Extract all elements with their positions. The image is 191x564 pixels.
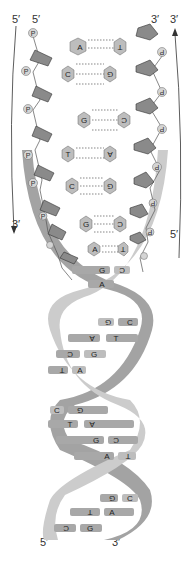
label-5-prime-mid-right: 5′	[170, 228, 178, 240]
svg-text:A: A	[92, 245, 98, 254]
base-pair-7: A T	[60, 232, 146, 264]
svg-text:G: G	[83, 220, 89, 229]
svg-text:A: A	[89, 334, 95, 343]
svg-text:A: A	[77, 366, 83, 375]
svg-text:C: C	[119, 266, 125, 275]
base-pair-4: T A	[34, 138, 156, 181]
svg-text:T: T	[114, 334, 119, 343]
helix-pair: G C	[98, 318, 138, 327]
label-3-prime-inner-right: 3′	[151, 13, 159, 25]
svg-text:G: G	[87, 524, 93, 533]
svg-text:P: P	[41, 213, 46, 220]
helix-pair: G C	[100, 494, 138, 503]
svg-text:C: C	[54, 406, 60, 415]
svg-text:A: A	[104, 452, 110, 461]
svg-text:C: C	[121, 116, 127, 125]
svg-text:G: G	[81, 116, 87, 125]
svg-text:C: C	[69, 182, 75, 191]
label-5-prime-outer-left: 5′	[12, 13, 20, 25]
helix-pair: T A	[48, 366, 86, 375]
svg-text:T: T	[59, 366, 64, 375]
svg-text:P: P	[24, 68, 29, 75]
svg-text:C: C	[67, 350, 73, 359]
helix-pair: C G	[54, 524, 102, 533]
svg-text:P: P	[147, 229, 152, 236]
svg-text:P: P	[31, 30, 36, 37]
svg-text:C: C	[63, 524, 69, 533]
helix-pair: G C	[72, 266, 130, 275]
svg-text:G: G	[91, 350, 97, 359]
svg-text:C: C	[65, 70, 71, 79]
label-5-prime-inner-left: 5′	[32, 13, 40, 25]
svg-text:C: C	[117, 220, 123, 229]
helix-pair: C G	[56, 350, 106, 359]
svg-text:G: G	[77, 406, 83, 415]
label-3-prime-outer-right: 3′	[170, 13, 178, 25]
helix-pair: A T	[74, 452, 136, 461]
svg-text:A: A	[99, 280, 105, 289]
svg-text:C: C	[127, 318, 133, 327]
svg-text:G: G	[93, 436, 99, 445]
svg-text:T: T	[66, 150, 71, 159]
svg-text:A: A	[109, 508, 115, 517]
right-direction-arrow	[172, 28, 181, 258]
svg-text:P: P	[154, 164, 159, 171]
svg-text:T: T	[87, 508, 92, 517]
svg-text:T: T	[120, 245, 125, 254]
helix-pair: A	[88, 280, 114, 289]
svg-text:G: G	[107, 70, 113, 79]
svg-text:P: P	[150, 200, 155, 207]
svg-text:T: T	[117, 43, 122, 52]
left-direction-arrow	[11, 26, 17, 234]
svg-text:P: P	[26, 106, 31, 113]
svg-text:C: C	[113, 436, 119, 445]
helix-pair: C G	[50, 406, 108, 415]
svg-text:G: G	[105, 318, 111, 327]
svg-text:P: P	[159, 49, 164, 56]
svg-text:T: T	[125, 452, 130, 461]
svg-text:P: P	[159, 89, 164, 96]
svg-text:A: A	[107, 150, 113, 159]
svg-text:P: P	[26, 152, 31, 159]
svg-text:G: G	[109, 494, 115, 503]
helix-pair: T A	[70, 508, 134, 517]
svg-text:T: T	[68, 420, 73, 429]
svg-text:A: A	[89, 420, 95, 429]
svg-text:P: P	[159, 126, 164, 133]
label-3-prime-mid-left: 3′	[12, 218, 20, 230]
svg-text:G: G	[107, 182, 113, 191]
helix-pair: G C	[56, 436, 138, 445]
svg-text:C: C	[127, 494, 133, 503]
base-pair-1: A T	[30, 24, 158, 66]
dna-diagram: 5′ 5′ 3′ 3′ 3′ 5′ 5′ 3′ A T C	[0, 0, 191, 564]
base-pair-3: G C	[32, 98, 158, 142]
svg-text:A: A	[77, 43, 83, 52]
svg-text:G: G	[99, 266, 105, 275]
helix-pair: A T	[68, 334, 138, 343]
base-pair-2: C G	[32, 60, 158, 102]
svg-text:P: P	[31, 180, 36, 187]
helix-pair: T A	[48, 420, 134, 429]
